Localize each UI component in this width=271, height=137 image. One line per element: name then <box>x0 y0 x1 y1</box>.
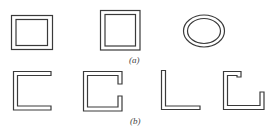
lipped-angle-section <box>224 72 265 110</box>
group-b-label: (b) <box>130 116 141 126</box>
group-a-label: (a) <box>129 55 140 65</box>
hollow-rectangular-section <box>12 16 53 50</box>
channel-section <box>14 72 52 111</box>
lipped-channel-section <box>84 72 123 112</box>
angle-section <box>162 71 201 110</box>
hollow-square-section <box>101 11 141 51</box>
cross-section-diagram: (a) (b) <box>0 0 271 137</box>
hollow-elliptical-section <box>184 15 225 47</box>
